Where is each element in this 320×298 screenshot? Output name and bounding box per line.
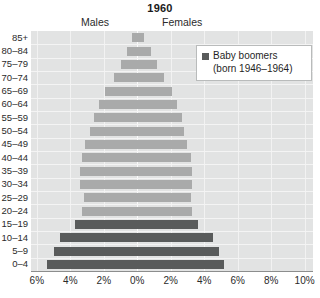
legend-sublabel: (born 1946–1964)	[202, 62, 306, 75]
females-side-label: Females	[162, 16, 202, 28]
legend: Baby boomers (born 1946–1964)	[196, 45, 312, 81]
x-axis-tick-label: 0%	[130, 275, 144, 287]
row-separator	[31, 178, 313, 179]
bar-female	[137, 247, 219, 256]
y-axis-tick-label: 25–29	[2, 193, 28, 203]
bar-female	[137, 220, 197, 229]
row-separator	[31, 231, 313, 232]
x-axis-tick-label: 10%	[295, 275, 315, 287]
y-axis-tick-label: 10–14	[2, 233, 28, 243]
bar-female	[137, 153, 191, 162]
y-axis-tick-label: 30–34	[2, 179, 28, 189]
row-separator	[31, 204, 313, 205]
bar-male	[94, 113, 138, 122]
bar-female	[137, 167, 192, 176]
legend-swatch-icon	[202, 53, 209, 60]
row-separator	[31, 218, 313, 219]
legend-item-baby-boomers: Baby boomers	[202, 50, 306, 62]
bar-female	[137, 100, 177, 109]
bar-female	[137, 207, 192, 216]
bar-female	[137, 260, 224, 269]
bar-male	[47, 260, 137, 269]
bar-female	[137, 73, 164, 82]
row-separator	[31, 151, 313, 152]
bar-female	[137, 113, 182, 122]
x-axis-line	[31, 271, 313, 272]
y-axis-tick-label: 50–54	[2, 126, 28, 136]
row-separator	[31, 138, 313, 139]
x-axis-labels: 6%4%2%0%2%4%6%8%10%	[0, 275, 320, 291]
bar-female	[137, 47, 150, 56]
bar-male	[60, 233, 137, 242]
row-separator	[31, 244, 313, 245]
bar-male	[85, 140, 137, 149]
y-axis-tick-label: 55–59	[2, 113, 28, 123]
y-axis-labels: 85+80–8475–7970–7465–6960–6455–5950–5445…	[0, 31, 28, 271]
bar-female	[137, 140, 187, 149]
y-axis-tick-label: 65–69	[2, 86, 28, 96]
bar-female	[137, 233, 212, 242]
bar-male	[121, 60, 138, 69]
chart-title: 1960	[0, 2, 320, 14]
bar-male	[84, 193, 138, 202]
bar-male	[114, 73, 137, 82]
x-axis-tick-label: 4%	[197, 275, 211, 287]
bar-male	[75, 220, 137, 229]
x-axis-tick-label: 6%	[230, 275, 244, 287]
bar-male	[80, 180, 137, 189]
y-axis-tick-label: 85+	[12, 33, 28, 43]
row-separator	[31, 98, 313, 99]
y-axis-tick-label: 75–79	[2, 59, 28, 69]
y-axis-tick-label: 0–4	[12, 259, 28, 269]
row-separator	[31, 191, 313, 192]
males-side-label: Males	[81, 16, 109, 28]
bar-female	[137, 193, 191, 202]
bar-female	[137, 127, 184, 136]
bar-male	[54, 247, 138, 256]
bar-female	[137, 60, 157, 69]
y-axis-tick-label: 80–84	[2, 46, 28, 56]
x-axis-tick-label: 6%	[30, 275, 44, 287]
bar-male	[80, 167, 137, 176]
bar-male	[105, 87, 137, 96]
bar-male	[82, 207, 137, 216]
row-separator	[31, 124, 313, 125]
population-pyramid-chart: 1960 Males Females 85+80–8475–7970–7465–…	[0, 0, 320, 298]
bar-male	[127, 47, 137, 56]
legend-label: Baby boomers	[213, 50, 277, 62]
y-axis-tick-label: 70–74	[2, 73, 28, 83]
y-axis-tick-label: 40–44	[2, 153, 28, 163]
y-axis-tick-label: 20–24	[2, 206, 28, 216]
x-axis-tick-label: 4%	[63, 275, 77, 287]
y-axis-tick-label: 45–49	[2, 139, 28, 149]
y-axis-tick-label: 35–39	[2, 166, 28, 176]
bar-female	[137, 180, 192, 189]
row-separator	[31, 84, 313, 85]
row-separator	[31, 258, 313, 259]
bar-male	[90, 127, 137, 136]
row-separator	[31, 111, 313, 112]
y-axis-tick-label: 60–64	[2, 99, 28, 109]
bar-male	[82, 153, 137, 162]
x-axis-tick-label: 2%	[164, 275, 178, 287]
bar-female	[137, 33, 144, 42]
x-axis-tick-label: 8%	[264, 275, 278, 287]
x-axis-tick-label: 2%	[97, 275, 111, 287]
y-axis-tick-label: 15–19	[2, 219, 28, 229]
bar-female	[137, 87, 172, 96]
row-separator	[31, 164, 313, 165]
y-axis-tick-label: 5–9	[12, 246, 28, 256]
bar-male	[99, 100, 137, 109]
